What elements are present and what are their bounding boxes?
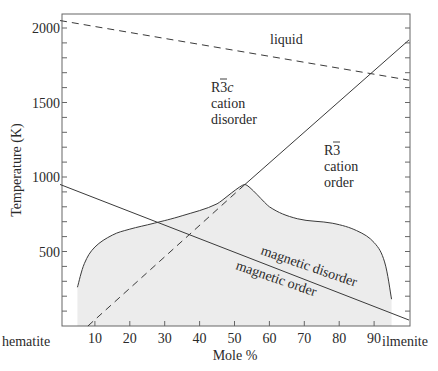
phase-diagram: 500100015002000 102030405060708090 Tempe… [0, 0, 438, 371]
x-axis-label: Mole % [213, 348, 258, 363]
r3c-symbol: R3 [211, 80, 227, 95]
liquidus-line [60, 21, 409, 81]
y-tick-label: 1500 [32, 96, 60, 111]
r3c-line2: disorder [211, 112, 257, 127]
x-tick-label: 50 [228, 331, 242, 346]
r3-line2: order [324, 175, 354, 190]
r3-label-group: R3 cation order [324, 142, 358, 190]
r3c-label-group: R3c cation disorder [211, 79, 257, 127]
y-axis-label: Temperature (K) [9, 123, 25, 217]
svg-text:R3c: R3c [211, 80, 234, 95]
y-tick-label: 2000 [32, 21, 60, 36]
x-tick-label: 90 [367, 331, 381, 346]
x-tick-label: 80 [332, 331, 346, 346]
x-tick-label: 30 [158, 331, 172, 346]
liquid-label: liquid [270, 32, 303, 47]
x-tick-label: 60 [262, 331, 276, 346]
r3-line1: cation [324, 159, 358, 174]
shaded-region [77, 184, 391, 326]
hematite-label: hematite [2, 334, 50, 349]
x-tick-label: 10 [88, 331, 102, 346]
r3c-suffix: c [227, 80, 234, 95]
r3c-line1: cation [211, 96, 245, 111]
y-tick-label: 500 [39, 245, 60, 260]
x-tick-label: 20 [123, 331, 137, 346]
y-tick-label: 1000 [32, 170, 60, 185]
x-tick-label: 40 [193, 331, 207, 346]
r3-symbol: R3 [324, 143, 340, 158]
ilmenite-label: ilmenite [382, 334, 428, 349]
x-tick-label: 70 [297, 331, 311, 346]
